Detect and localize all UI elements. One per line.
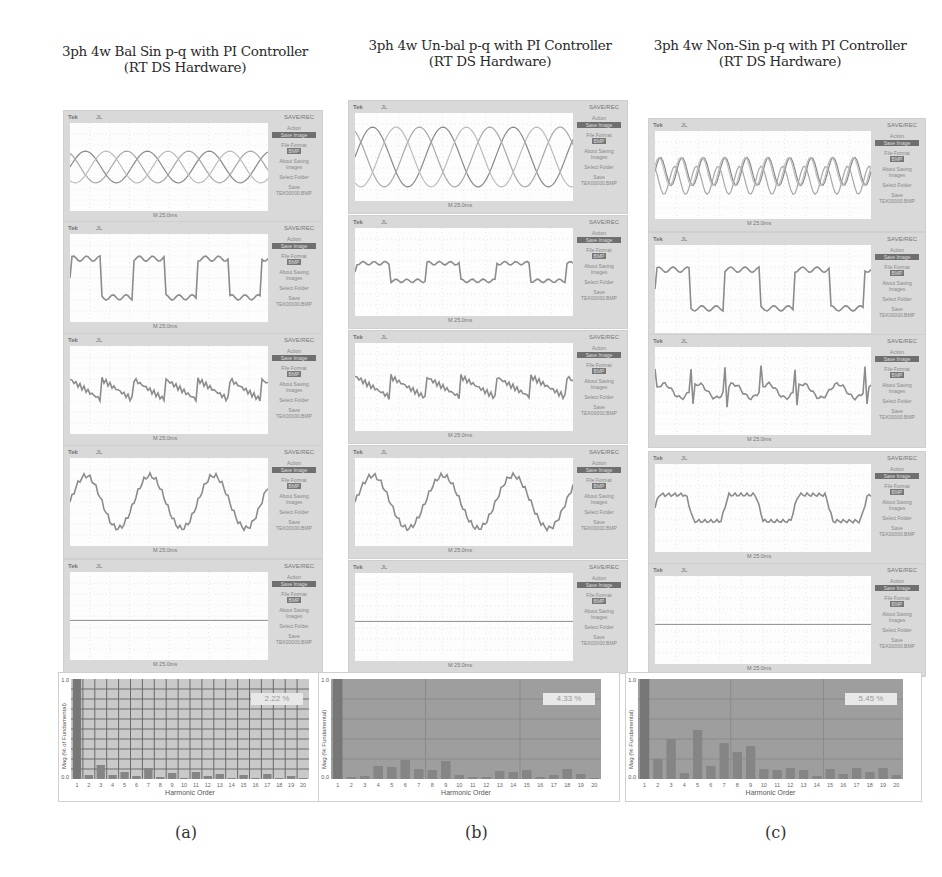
thd-value: 2.22 %: [251, 693, 303, 705]
svg-text:2: 2: [656, 782, 659, 788]
harmonic-bar: [495, 771, 504, 779]
trigger-icon: JL: [681, 236, 687, 242]
action-item: ActionSave Image: [577, 460, 621, 473]
svg-text:0.0: 0.0: [321, 774, 329, 780]
about-saving: About Saving Images: [272, 269, 316, 281]
trigger-icon: JL: [681, 455, 687, 461]
time-base: M 25.0ms: [153, 435, 177, 441]
about-saving: About Saving Images: [272, 607, 316, 619]
time-base: M 25.0ms: [153, 323, 177, 329]
svg-text:17: 17: [551, 782, 557, 788]
file-format-value: BMP: [890, 489, 905, 495]
svg-text:10: 10: [456, 782, 462, 788]
svg-text:20: 20: [893, 782, 899, 788]
svg-text:14: 14: [229, 782, 235, 788]
waveform-trace: [355, 458, 573, 546]
scope-screen: [355, 228, 573, 316]
save-file: Save TEK00000.BMP: [577, 519, 621, 531]
about-saving: About Saving Images: [577, 608, 621, 620]
action-label: Action: [287, 460, 301, 466]
scope-menu-title: SAVE/REC: [284, 337, 314, 343]
trigger-icon: JL: [681, 567, 687, 573]
harmonic-bar: [227, 778, 235, 779]
scope-brand: Tek: [653, 338, 663, 344]
waveform-trace: [355, 573, 573, 661]
svg-text:18: 18: [867, 782, 873, 788]
scope-menu-title: SAVE/REC: [284, 225, 314, 231]
waveform-trace: [70, 458, 268, 546]
save-file: Save TEK00000.BMP: [272, 519, 316, 531]
select-folder: Select Folder: [272, 623, 316, 629]
scope-menu-title: SAVE/REC: [589, 219, 619, 225]
svg-text:15: 15: [524, 782, 530, 788]
oscilloscope-capture: TekJLSAVE/RECM 25.0msActionSave ImageFil…: [63, 221, 323, 335]
about-saving: About Saving Images: [875, 611, 919, 623]
file-format-value: BMP: [890, 270, 905, 276]
oscilloscope-capture: TekJLSAVE/RECM 25.0msActionSave ImageFil…: [648, 232, 926, 346]
harmonic-bar: [759, 769, 768, 779]
harmonic-spectrum-chart: 12345678910111213141516171819201.00.04.3…: [318, 672, 620, 802]
oscilloscope-capture: TekJLSAVE/RECM 25.0msActionSave ImageFil…: [348, 330, 628, 444]
trigger-icon: JL: [96, 114, 102, 120]
action-label: Action: [287, 125, 301, 131]
y-axis-label: Mag (% of Fundamental): [61, 703, 67, 769]
scope-side-menu: ActionSave ImageFile FormatBMPAbout Savi…: [577, 230, 621, 305]
file-format-item: File FormatBMP: [875, 150, 919, 162]
svg-text:20: 20: [300, 782, 306, 788]
waveform-trace: [655, 131, 871, 219]
svg-text:5: 5: [696, 782, 699, 788]
svg-text:3: 3: [363, 782, 366, 788]
select-folder: Select Folder: [272, 174, 316, 180]
file-format-value: BMP: [592, 138, 607, 144]
action-value: Save Image: [272, 132, 316, 138]
scope-side-menu: ActionSave ImageFile FormatBMPAbout Savi…: [272, 348, 316, 423]
save-file: Save TEK00000.BMP: [272, 407, 316, 419]
action-value: Save Image: [875, 356, 919, 362]
scope-screen: [70, 346, 268, 434]
file-format-item: File FormatBMP: [875, 366, 919, 378]
action-item: ActionSave Image: [875, 466, 919, 479]
file-format-item: File FormatBMP: [577, 132, 621, 144]
scope-screen: [655, 245, 871, 333]
svg-text:7: 7: [723, 782, 726, 788]
scope-menu-title: SAVE/REC: [887, 567, 917, 573]
oscilloscope-capture: TekJLSAVE/RECM 25.0msActionSave ImageFil…: [648, 563, 926, 677]
select-folder: Select Folder: [272, 509, 316, 515]
scope-header: TekJLSAVE/REC: [349, 101, 627, 113]
svg-text:16: 16: [252, 782, 258, 788]
scope-screen: [655, 464, 871, 552]
svg-text:13: 13: [801, 782, 807, 788]
action-label: Action: [890, 466, 904, 472]
svg-text:13: 13: [497, 782, 503, 788]
svg-text:10: 10: [761, 782, 767, 788]
waveform-trace: [655, 464, 871, 552]
harmonic-bar: [852, 768, 861, 779]
harmonic-bar: [216, 774, 224, 779]
scope-side-menu: ActionSave ImageFile FormatBMPAbout Savi…: [875, 349, 919, 424]
select-folder: Select Folder: [577, 279, 621, 285]
about-saving: About Saving Images: [875, 499, 919, 511]
harmonic-bar: [156, 777, 164, 779]
harmonic-bar: [865, 772, 874, 779]
harmonic-bar: [401, 760, 410, 779]
about-saving: About Saving Images: [875, 280, 919, 292]
oscilloscope-capture: TekJLSAVE/RECM 25.0msActionSave ImageFil…: [63, 559, 323, 673]
harmonic-bar: [839, 774, 848, 779]
harmonic-bar: [786, 768, 795, 779]
harmonic-bar: [333, 679, 342, 779]
scope-header: TekJLSAVE/REC: [349, 561, 627, 573]
file-format-item: File FormatBMP: [272, 142, 316, 154]
svg-text:9: 9: [749, 782, 752, 788]
svg-text:12: 12: [787, 782, 793, 788]
scope-header: TekJLSAVE/REC: [64, 111, 322, 123]
save-file: Save TEK00000.BMP: [875, 306, 919, 318]
harmonic-bar: [522, 770, 531, 779]
save-file: Save TEK00000.BMP: [875, 192, 919, 204]
svg-text:5: 5: [123, 782, 126, 788]
action-label: Action: [890, 133, 904, 139]
harmonic-bar: [192, 772, 200, 779]
scope-menu-title: SAVE/REC: [887, 236, 917, 242]
save-file: Save TEK00000.BMP: [875, 637, 919, 649]
select-folder: Select Folder: [875, 398, 919, 404]
select-folder: Select Folder: [577, 164, 621, 170]
